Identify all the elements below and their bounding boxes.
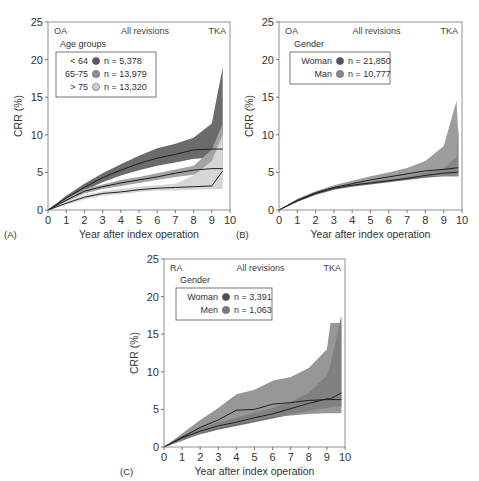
y-tick-label: 25 xyxy=(262,16,274,28)
y-tick-label: 25 xyxy=(147,253,159,265)
x-axis-label: Year after index operation xyxy=(195,465,315,477)
header-left: OA xyxy=(54,26,67,36)
legend-item-count: n = 13,320 xyxy=(104,82,147,92)
header-right: TKA xyxy=(440,26,458,36)
legend-item-label: Woman xyxy=(187,292,218,302)
header-center: All revisions xyxy=(236,263,285,273)
x-tick-label: 9 xyxy=(441,214,447,226)
y-tick-label: 20 xyxy=(147,291,159,303)
legend-item-count: n = 5,378 xyxy=(104,56,142,66)
x-tick-label: 3 xyxy=(331,214,337,226)
x-tick-label: 2 xyxy=(81,214,87,226)
legend-title: Age groups xyxy=(60,39,107,49)
legend-marker-icon xyxy=(336,57,343,64)
x-tick-label: 6 xyxy=(154,214,160,226)
x-tick-label: 9 xyxy=(324,451,330,463)
panel-b: 0123456789100510152025Year after index o… xyxy=(236,16,468,240)
x-tick-label: 9 xyxy=(209,214,215,226)
legend-title: Gender xyxy=(180,275,210,285)
x-tick-label: 4 xyxy=(118,214,124,226)
y-tick-label: 0 xyxy=(37,204,43,216)
header-left: OA xyxy=(285,26,298,36)
header-right: TKA xyxy=(323,263,341,273)
y-tick-label: 0 xyxy=(268,204,274,216)
panel-label: (B) xyxy=(236,229,249,240)
header-center: All revisions xyxy=(121,26,170,36)
x-tick-label: 6 xyxy=(386,214,392,226)
x-tick-label: 10 xyxy=(456,214,468,226)
panel-a: 0123456789100510152025Year after index o… xyxy=(4,16,236,240)
legend-marker-icon xyxy=(92,57,99,64)
x-tick-label: 7 xyxy=(288,451,294,463)
header-center: All revisions xyxy=(352,26,401,36)
x-tick-label: 5 xyxy=(251,451,257,463)
x-tick-label: 7 xyxy=(172,214,178,226)
panel-label: (C) xyxy=(120,466,133,477)
x-tick-label: 6 xyxy=(270,451,276,463)
x-tick-label: 10 xyxy=(339,451,351,463)
legend-item-count: n = 10,777 xyxy=(348,69,391,79)
y-tick-label: 20 xyxy=(31,54,43,66)
x-tick-label: 4 xyxy=(233,451,239,463)
y-tick-label: 5 xyxy=(268,166,274,178)
header-right: TKA xyxy=(208,26,226,36)
y-tick-label: 15 xyxy=(147,328,159,340)
legend-title: Gender xyxy=(294,39,324,49)
x-tick-label: 0 xyxy=(276,214,282,226)
legend-marker-icon xyxy=(92,70,99,77)
x-tick-label: 5 xyxy=(136,214,142,226)
legend-item-label: Men xyxy=(200,305,218,315)
confidence-band-man xyxy=(279,101,458,210)
legend-marker-icon xyxy=(92,83,99,90)
legend: GenderWomann = 21,850Mann = 10,777 xyxy=(290,39,391,84)
panel-c: 0123456789100510152025Year after index o… xyxy=(120,253,351,477)
panel-label: (A) xyxy=(4,229,17,240)
x-axis-label: Year after index operation xyxy=(79,228,199,240)
x-tick-label: 2 xyxy=(313,214,319,226)
y-tick-label: 10 xyxy=(31,129,43,141)
legend-item-label: Woman xyxy=(301,56,332,66)
y-tick-label: 15 xyxy=(262,91,274,103)
legend-item-count: n = 13,979 xyxy=(104,69,147,79)
legend-item-label: < 64 xyxy=(70,56,88,66)
y-axis-label: CRR (%) xyxy=(128,332,140,374)
y-tick-label: 5 xyxy=(37,166,43,178)
y-tick-label: 25 xyxy=(31,16,43,28)
header-left: RA xyxy=(170,263,183,273)
y-tick-label: 10 xyxy=(262,129,274,141)
x-tick-label: 10 xyxy=(224,214,236,226)
legend-item-count: n = 1,063 xyxy=(234,305,272,315)
y-tick-label: 20 xyxy=(262,54,274,66)
legend-item-count: n = 21,850 xyxy=(348,56,391,66)
x-tick-label: 1 xyxy=(63,214,69,226)
x-tick-label: 0 xyxy=(161,451,167,463)
x-tick-label: 7 xyxy=(404,214,410,226)
x-tick-label: 5 xyxy=(367,214,373,226)
x-tick-label: 3 xyxy=(100,214,106,226)
y-tick-label: 15 xyxy=(31,91,43,103)
y-tick-label: 10 xyxy=(147,366,159,378)
x-tick-label: 1 xyxy=(179,451,185,463)
y-axis-label: CRR (%) xyxy=(243,95,255,137)
legend: GenderWomann = 3,391Menn = 1,063 xyxy=(176,275,272,320)
legend-marker-icon xyxy=(222,306,229,313)
x-tick-label: 2 xyxy=(197,451,203,463)
x-tick-label: 8 xyxy=(306,451,312,463)
y-tick-label: 0 xyxy=(153,441,159,453)
y-axis-label: CRR (%) xyxy=(12,95,24,137)
x-axis-label: Year after index operation xyxy=(311,228,431,240)
confidence-band-men xyxy=(164,323,341,447)
x-tick-label: 8 xyxy=(191,214,197,226)
x-tick-label: 0 xyxy=(45,214,51,226)
legend-item-label: Man xyxy=(314,69,332,79)
legend-item-label: > 75 xyxy=(70,82,88,92)
legend-item-label: 65-75 xyxy=(65,69,88,79)
x-tick-label: 8 xyxy=(422,214,428,226)
x-tick-label: 1 xyxy=(294,214,300,226)
legend-item-count: n = 3,391 xyxy=(234,292,272,302)
x-tick-label: 3 xyxy=(215,451,221,463)
figure: 0123456789100510152025Year after index o… xyxy=(0,0,479,481)
y-tick-label: 5 xyxy=(153,403,159,415)
x-tick-label: 4 xyxy=(349,214,355,226)
legend-marker-icon xyxy=(222,293,229,300)
